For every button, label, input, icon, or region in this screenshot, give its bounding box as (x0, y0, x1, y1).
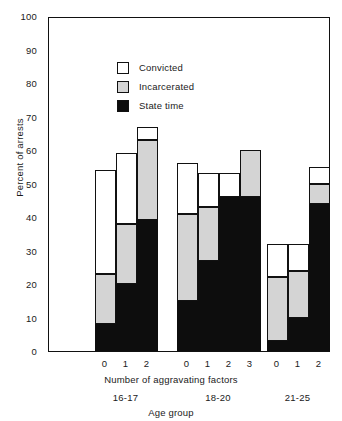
x-axis-tick-label-18-20-2: 2 (219, 358, 239, 369)
x-axis-tick-label-16-17-1: 1 (116, 358, 136, 369)
bar-segment-state-time (240, 197, 261, 351)
bar-segment-incarcerated (177, 214, 198, 301)
y-axis-tick-label: 0 (32, 345, 37, 358)
legend-label-incarcerated: Incarcerated (139, 80, 194, 94)
y-axis-tick-label: 50 (26, 178, 37, 191)
group-label-16-17: 16-17 (91, 392, 161, 403)
y-axis-tick-label: 70 (26, 111, 37, 124)
group-axis-title: Age group (0, 407, 342, 418)
legend-label-convicted: Convicted (139, 61, 183, 75)
bar-segment-convicted (267, 244, 288, 278)
y-axis-tick-label: 40 (26, 211, 37, 224)
x-axis-tick-label-21-25-1: 1 (288, 358, 308, 369)
plot-area: Convicted Incarcerated State time (48, 17, 330, 352)
x-axis-tick-label-21-25-2: 2 (309, 358, 329, 369)
y-axis-tick-label: 10 (26, 312, 37, 325)
bar-18-20-1 (198, 173, 219, 351)
x-axis-tick-label-21-25-0: 0 (267, 358, 287, 369)
bar-segment-convicted (116, 153, 137, 223)
bar-18-20-2 (219, 173, 240, 351)
bar-segment-state-time (116, 284, 137, 351)
legend-swatch-incarcerated-icon (117, 81, 129, 93)
x-axis-tick-label-18-20-3: 3 (240, 358, 260, 369)
bar-segment-incarcerated (116, 224, 137, 284)
bar-segment-incarcerated (288, 271, 309, 318)
bar-16-17-0 (95, 170, 116, 351)
bar-16-17-1 (116, 153, 137, 351)
bar-18-20-0 (177, 163, 198, 351)
bar-segment-state-time (95, 324, 116, 351)
bar-segment-convicted (198, 173, 219, 207)
y-axis-tick-label: 30 (26, 245, 37, 258)
bar-segment-convicted (219, 173, 240, 196)
bar-segment-state-time (288, 318, 309, 352)
x-axis-tick-label-16-17-2: 2 (137, 358, 157, 369)
legend-label-state-time: State time (139, 99, 184, 113)
bar-21-25-1 (288, 244, 309, 351)
bar-16-17-2 (137, 127, 158, 351)
chart-container: Percent of arrests 100908070605040302010… (0, 0, 342, 421)
bar-segment-incarcerated (240, 150, 261, 197)
bar-segment-convicted (288, 244, 309, 271)
bar-21-25-2 (309, 167, 330, 351)
x-axis-title: Number of aggravating factors (0, 374, 342, 385)
x-axis-tick-label-18-20-1: 1 (198, 358, 218, 369)
bar-segment-incarcerated (198, 207, 219, 261)
bar-segment-convicted (309, 167, 330, 184)
bar-segment-convicted (137, 127, 158, 140)
y-axis-tick-label: 90 (26, 44, 37, 57)
bar-segment-state-time (267, 341, 288, 351)
x-axis-tick-label-16-17-0: 0 (95, 358, 115, 369)
bar-segment-state-time (309, 204, 330, 351)
group-label-21-25: 21-25 (263, 392, 333, 403)
bar-segment-incarcerated (137, 140, 158, 220)
y-axis-tick-label: 100 (21, 10, 37, 23)
y-axis-tick-label: 80 (26, 77, 37, 90)
bar-segment-convicted (177, 163, 198, 213)
bar-segment-incarcerated (95, 274, 116, 324)
y-axis-tick-label: 20 (26, 278, 37, 291)
bar-segment-state-time (177, 301, 198, 351)
x-axis-tick-label-18-20-0: 0 (177, 358, 197, 369)
legend-swatch-convicted-icon (117, 62, 129, 74)
legend-swatch-state-time-icon (117, 100, 129, 112)
bar-segment-state-time (137, 220, 158, 351)
y-axis-tick-label: 60 (26, 144, 37, 157)
bar-18-20-3 (240, 150, 261, 351)
bar-segment-incarcerated (309, 184, 330, 204)
y-axis-title: Percent of arrests (14, 93, 25, 223)
bar-21-25-0 (267, 244, 288, 351)
bar-segment-state-time (219, 197, 240, 351)
bar-segment-state-time (198, 261, 219, 351)
group-label-18-20: 18-20 (183, 392, 253, 403)
bar-segment-incarcerated (267, 277, 288, 341)
bar-segment-convicted (95, 170, 116, 274)
